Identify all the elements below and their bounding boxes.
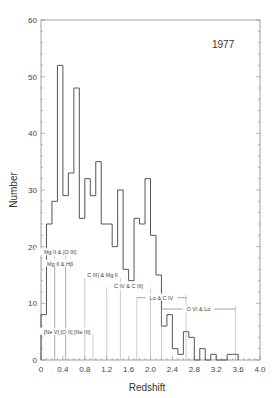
y-tick-label: 0: [33, 356, 38, 365]
x-tick-label: 0: [39, 365, 44, 374]
x-tick-label: 4.0: [254, 365, 266, 374]
x-tick-label: 0.4: [57, 365, 69, 374]
y-tick-label: 30: [28, 186, 37, 195]
annotation-label: [Ne V] [O II] [Ne III]: [44, 329, 91, 335]
y-axis-title: Number: [8, 172, 19, 208]
line-annotations: Mg II & [O III]Mg II & HβC III] & Mg IIC…: [31, 248, 235, 360]
year-label: 1977: [212, 39, 235, 50]
annotation-label: Mg II & [O III]: [44, 249, 77, 255]
x-axis: 00.40.81.21.62.02.42.83.23.64.0: [39, 356, 266, 374]
annotation-bracket: [Ne V] [O II] [Ne III]: [31, 328, 103, 360]
x-axis-title: Redshift: [129, 382, 166, 393]
annotation-label: C III] & Mg II: [87, 272, 118, 278]
annotation-label: Lα & C IV: [150, 295, 174, 301]
annotation-label: Mg II & Hβ: [47, 261, 73, 267]
annotation-bracket: Mg II & Hβ: [43, 260, 78, 360]
y-tick-label: 40: [28, 129, 37, 138]
redshift-histogram-chart: 0102030405060 00.40.81.21.62.02.42.83.23…: [0, 0, 280, 398]
y-tick-label: 50: [28, 73, 37, 82]
x-tick-label: 1.6: [123, 365, 135, 374]
x-tick-label: 3.2: [211, 365, 223, 374]
x-tick-label: 1.2: [101, 365, 113, 374]
x-tick-label: 2.0: [145, 365, 157, 374]
y-tick-label: 10: [28, 299, 37, 308]
annotation-bracket: C IV & C III]: [106, 282, 150, 360]
x-tick-label: 3.6: [233, 365, 245, 374]
histogram-outline: [41, 65, 238, 360]
x-tick-label: 2.8: [189, 365, 201, 374]
y-tick-label: 60: [28, 16, 37, 25]
annotation-label: O VI & Lα: [186, 306, 211, 312]
annotation-label: C IV & C III]: [114, 283, 144, 289]
x-tick-label: 2.4: [167, 365, 179, 374]
x-tick-label: 0.8: [79, 365, 91, 374]
